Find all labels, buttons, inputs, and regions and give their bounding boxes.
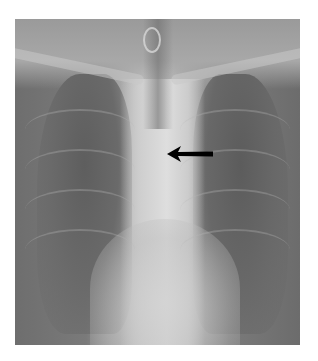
rib bbox=[180, 229, 290, 271]
rib bbox=[180, 109, 290, 151]
rib bbox=[25, 189, 135, 231]
rib bbox=[180, 189, 290, 231]
arrow-left-icon bbox=[167, 146, 213, 162]
rib bbox=[25, 229, 135, 271]
chest-xray-image bbox=[15, 19, 300, 345]
rib bbox=[25, 149, 135, 191]
vertebra bbox=[143, 27, 161, 53]
rib bbox=[25, 109, 135, 151]
